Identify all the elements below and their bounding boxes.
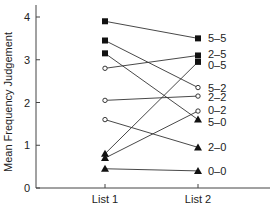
series-label: 2–2 xyxy=(208,91,226,103)
square-marker xyxy=(102,18,108,24)
y-axis-label: Mean Frequency Judgement xyxy=(2,32,14,172)
circle-marker xyxy=(103,66,107,70)
series-label: 5–5 xyxy=(208,32,226,44)
y-tick-label: 1 xyxy=(24,139,30,151)
x-ticks: List 1List 2 xyxy=(92,184,211,205)
series-line-2-2 xyxy=(105,96,198,100)
x-tick-label: List 2 xyxy=(185,193,211,205)
series-label: 0–5 xyxy=(208,59,226,71)
series-line-0-5 xyxy=(105,62,198,154)
square-marker xyxy=(195,35,201,41)
triangle-marker xyxy=(194,116,202,123)
circle-marker xyxy=(196,94,200,98)
y-tick-label: 0 xyxy=(24,182,30,194)
circle-marker xyxy=(196,109,200,113)
circle-marker xyxy=(103,98,107,102)
series-label: 0–0 xyxy=(208,165,226,177)
y-tick-label: 3 xyxy=(24,54,30,66)
y-ticks: 01234 xyxy=(24,11,40,194)
series-lines xyxy=(105,21,198,171)
x-tick-label: List 1 xyxy=(92,193,118,205)
series-line-5-5 xyxy=(105,21,198,38)
y-tick-label: 4 xyxy=(24,11,30,23)
series-line-0-0 xyxy=(105,169,198,171)
series-markers xyxy=(101,18,202,174)
square-marker xyxy=(102,50,108,56)
series-line-5-2 xyxy=(105,41,198,88)
square-marker xyxy=(195,52,201,58)
series-label: 2–0 xyxy=(208,141,226,153)
circle-marker xyxy=(103,117,107,121)
triangle-marker xyxy=(101,165,109,172)
series-labels: 5–55–25–02–52–22–00–50–20–0 xyxy=(208,32,226,177)
circle-marker xyxy=(196,85,200,89)
square-marker xyxy=(102,38,108,44)
series-line-2-5 xyxy=(105,55,198,68)
square-marker xyxy=(195,59,201,65)
y-tick-label: 2 xyxy=(24,97,30,109)
series-label: 0–2 xyxy=(208,104,226,116)
series-line-5-0 xyxy=(105,53,198,119)
series-label: 5–0 xyxy=(208,116,226,128)
frequency-judgement-chart: 01234 List 1List 2 Mean Frequency Judgem… xyxy=(0,0,274,209)
series-line-0-2 xyxy=(105,111,198,158)
series-line-2-0 xyxy=(105,120,198,148)
